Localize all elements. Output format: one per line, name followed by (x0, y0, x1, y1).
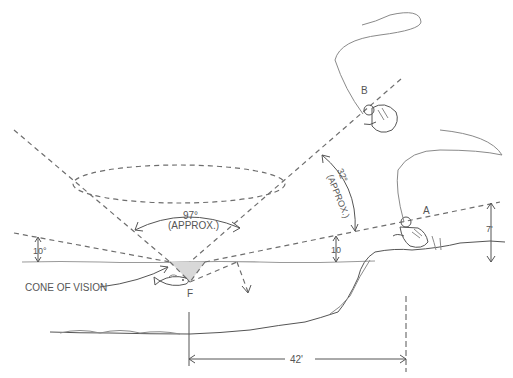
cone-angle-arrowhead-right (232, 222, 240, 232)
fisherman-a-label: A (423, 205, 430, 216)
fisherman-b-icon (364, 105, 397, 132)
fisherman-b-label: B (361, 85, 368, 96)
right-elevation-angle: 10 (331, 245, 341, 255)
fishing-line-a (397, 130, 502, 222)
cone-ellipse (73, 165, 285, 203)
horizontal-distance-label: 42' (290, 354, 303, 365)
left-elevation-angle: 10° (33, 246, 47, 256)
refraction-line-2 (237, 262, 248, 292)
bank-slope (50, 252, 375, 334)
cone-left-edge (14, 130, 170, 262)
fish-icon (154, 275, 189, 286)
bank-height-label: 7' (486, 224, 493, 234)
cone-of-vision-diagram: F CONE OF VISION 97° (APPROX.) 10° 10 32… (0, 0, 513, 378)
cone-of-vision-arrow (100, 267, 168, 287)
bank-shading (330, 260, 370, 314)
cone-right-edge-to-b (190, 79, 401, 262)
fish-label: F (187, 288, 193, 299)
b-angle-arrowhead-bottom (351, 224, 358, 231)
cone-angle-note: (APPROX.) (168, 220, 219, 231)
cone-of-vision-label: CONE OF VISION (25, 282, 107, 293)
